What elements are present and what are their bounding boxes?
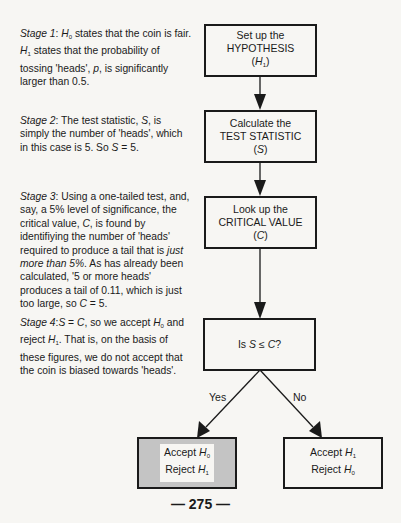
box-line: HYPOTHESIS [227,42,295,55]
subscript: 0 [207,453,210,459]
decision-box: Is S ≤ C? [203,318,316,371]
arrow-2 [254,162,266,196]
accept-h1-box: Accept H1 Reject H0 [283,437,383,489]
page-number: — 275 — [0,496,401,512]
accept-line: Accept H1 [310,446,356,463]
box-line: Look up the [233,203,288,216]
text: Reject [165,463,198,475]
hypothesis-box: Set up the HYPOTHESIS (H1) [204,24,317,77]
text: Accept [164,446,199,458]
text: Is [238,338,249,350]
box-line: Calculate the [230,117,291,130]
box-line: TEST STATISTIC [220,130,302,143]
accept-line: Accept H0 [164,446,210,463]
c-symbol: C [257,229,265,241]
yes-label: Yes [209,391,226,403]
h-symbol: H [199,446,207,458]
subscript: 1 [205,470,208,476]
text: ? [275,338,281,350]
box-symbol: (C) [253,229,268,242]
test-statistic-box: Calculate the TEST STATISTIC (S) [204,110,317,163]
arrow-1 [254,76,266,110]
operator: ≤ [256,338,268,350]
text: Accept [310,446,345,458]
box-symbol: (H1) [252,55,270,72]
box-line: Set up the [237,29,285,42]
no-label: No [293,391,306,403]
subscript: 1 [353,453,356,459]
decision-text: Is S ≤ C? [238,338,281,351]
arrow-3 [254,248,266,319]
box-line: CRITICAL VALUE [218,216,302,229]
s-symbol: S [249,338,256,350]
arrow-no [260,370,322,438]
accept-h0-box: Accept H0 Reject H1 [137,437,237,489]
arrow-yes [197,370,260,438]
h-symbol: H [345,446,353,458]
result-text: Accept H0 Reject H1 [160,444,214,482]
box-symbol: (S) [253,143,267,156]
reject-line: Reject H0 [311,463,355,480]
s-symbol: S [257,143,264,155]
subscript: 0 [351,470,354,476]
critical-value-box: Look up the CRITICAL VALUE (C) [204,196,317,249]
text: Reject [311,463,344,475]
h-symbol: H [255,55,263,67]
subscript: 1 [263,62,266,68]
reject-line: Reject H1 [164,463,210,480]
